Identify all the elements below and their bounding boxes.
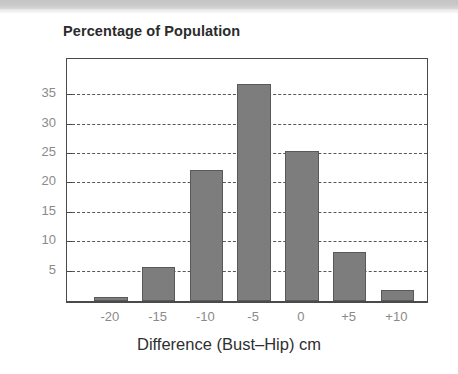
y-tick-10: [67, 241, 72, 242]
y-tick-5: [67, 271, 72, 272]
y-axis-label-15: 15: [0, 203, 56, 218]
scan-artifact-band: [0, 0, 458, 9]
chart-page: Percentage of Population 5101520253035 -…: [0, 0, 458, 374]
chart-title: Percentage of Population: [63, 23, 240, 39]
x-axis-title: Difference (Bust–Hip) cm: [0, 335, 458, 354]
y-tick-25: [67, 153, 72, 154]
bar-0: [285, 151, 318, 301]
y-tick-30: [67, 124, 72, 125]
scan-artifact-fade: [0, 9, 458, 14]
bar-+10: [381, 290, 414, 301]
y-tick-15: [67, 212, 72, 213]
y-tick-20: [67, 182, 72, 183]
x-axis-label-+10: +10: [366, 309, 426, 324]
bar--10: [190, 170, 223, 301]
plot-area: [66, 58, 428, 303]
bar--20: [94, 297, 127, 301]
y-axis-label-5: 5: [0, 262, 56, 277]
y-axis-label-25: 25: [0, 144, 56, 159]
plot-inner: [67, 59, 427, 301]
y-tick-35: [67, 94, 72, 95]
y-axis-label-30: 30: [0, 115, 56, 130]
y-axis-label-20: 20: [0, 173, 56, 188]
bar--5: [237, 84, 270, 301]
y-axis-label-10: 10: [0, 232, 56, 247]
bar--15: [142, 267, 175, 301]
y-axis-label-35: 35: [0, 85, 56, 100]
bar-+5: [333, 252, 366, 301]
